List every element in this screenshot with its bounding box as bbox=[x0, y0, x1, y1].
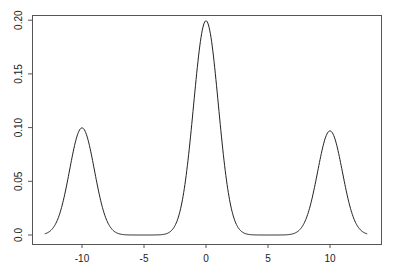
x-tick-label: 10 bbox=[324, 253, 336, 264]
density-curve bbox=[45, 21, 367, 235]
x-tick-label: -5 bbox=[140, 253, 149, 264]
x-tick-label: 0 bbox=[203, 253, 209, 264]
x-tick-label: -10 bbox=[75, 253, 90, 264]
y-tick-label: 0.10 bbox=[13, 117, 24, 137]
density-plot: -10-50510 0.00.050.100.150.20 bbox=[0, 0, 395, 273]
y-tick-label: 0.15 bbox=[13, 64, 24, 84]
y-axis: 0.00.050.100.150.20 bbox=[13, 10, 32, 242]
x-tick-label: 5 bbox=[265, 253, 271, 264]
x-axis: -10-50510 bbox=[75, 244, 336, 264]
y-tick-label: 0.0 bbox=[13, 228, 24, 242]
y-tick-label: 0.05 bbox=[13, 171, 24, 191]
y-tick-label: 0.20 bbox=[13, 10, 24, 30]
